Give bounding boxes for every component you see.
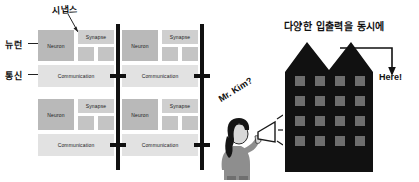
block-synapse: Synapse — [162, 30, 198, 44]
block-synapse-cell-1 — [162, 116, 178, 130]
neuromorphic-tile-diagram: 뉴런 통신 시냅스 Neuron Synapse Communication N… — [0, 0, 212, 182]
building-window — [355, 116, 365, 126]
speech-label: Mr. Kim? — [217, 75, 255, 104]
bus-cross-right-bottom — [194, 143, 210, 147]
block-neuron: Neuron — [122, 30, 158, 61]
building-window — [335, 96, 345, 106]
block-synapse-cell-2 — [98, 47, 114, 61]
building-window — [295, 116, 305, 126]
block-synapse-cell-1 — [78, 116, 94, 130]
block-communication: Communication — [122, 65, 198, 87]
building-window — [315, 116, 325, 126]
block-communication: Communication — [122, 134, 198, 156]
building-illustration: 다양한 입출력을 동시에 He — [212, 0, 419, 182]
building-window — [295, 76, 305, 86]
block-synapse-cell-1 — [162, 47, 178, 61]
annotation-communication-korean: 통신 — [5, 69, 22, 82]
building-window — [355, 136, 365, 146]
block-neuron: Neuron — [122, 99, 158, 130]
bus-vertical-right — [200, 24, 204, 170]
person-with-megaphone-icon — [217, 108, 283, 180]
building-window — [315, 76, 325, 86]
building-window — [295, 136, 305, 146]
block-synapse-cell-2 — [182, 116, 198, 130]
building-window — [335, 136, 345, 146]
block-synapse-cell-2 — [98, 116, 114, 130]
bus-cross-center-top — [110, 74, 126, 78]
block-neuron: Neuron — [38, 30, 74, 61]
bus-vertical-center — [116, 24, 120, 170]
bus-cross-center-bottom — [110, 143, 126, 147]
block-synapse-cell-2 — [182, 47, 198, 61]
illustration-title: 다양한 입출력을 동시에 — [284, 18, 385, 33]
building-window — [335, 116, 345, 126]
block-synapse: Synapse — [78, 30, 114, 44]
block-communication: Communication — [38, 134, 114, 156]
block-synapse: Synapse — [162, 99, 198, 113]
block-synapse: Synapse — [78, 99, 114, 113]
building-window-grid — [295, 76, 365, 160]
building-window — [315, 96, 325, 106]
block-synapse-cell-1 — [78, 47, 94, 61]
bus-cross-right-top — [194, 74, 210, 78]
figure-canvas: 뉴런 통신 시냅스 Neuron Synapse Communication N… — [0, 0, 419, 182]
block-neuron: Neuron — [38, 99, 74, 130]
building-window — [355, 96, 365, 106]
here-label: Here! — [379, 72, 402, 82]
building-window — [315, 136, 325, 146]
block-communication: Communication — [38, 65, 114, 87]
annotation-neuron-korean: 뉴런 — [5, 38, 22, 51]
building-window — [295, 96, 305, 106]
